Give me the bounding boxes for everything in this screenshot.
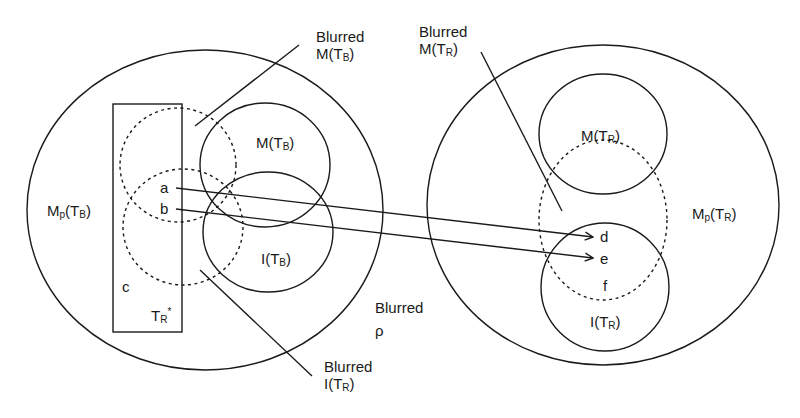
label-point-c: c	[122, 278, 130, 295]
label-blurred-m-tr: Blurred M(TR)	[419, 23, 467, 61]
tr-star-rectangle	[113, 104, 182, 332]
left-m-tb-circle	[200, 103, 330, 227]
left-i-tb-circle	[203, 172, 333, 292]
label-right-m-tr: M(TR)	[581, 127, 620, 148]
label-right-i-tr: I(TR)	[590, 313, 621, 334]
label-left-m-tb: M(TB)	[256, 134, 294, 155]
arrow-a-to-d	[176, 188, 593, 237]
callout-line-blurred-m-tb	[195, 45, 299, 126]
diagram-canvas	[0, 0, 800, 418]
label-blurred-rho: Blurred ρ	[375, 299, 423, 339]
label-point-d: d	[600, 228, 608, 245]
label-left-outer-mp-tb: Mp(TB)	[47, 202, 91, 223]
label-right-outer-mp-tr: Mp(TR)	[692, 205, 736, 226]
label-blurred-m-tb: Blurred M(TB)	[316, 28, 364, 66]
callout-line-blurred-m-tr	[481, 52, 562, 211]
label-point-e: e	[600, 250, 608, 267]
label-point-a: a	[160, 179, 168, 196]
callout-line-blurred-i-tr	[200, 270, 312, 376]
label-point-b: b	[160, 200, 168, 217]
left-dashed-blurred-m-circle	[120, 108, 236, 222]
label-tr-star: TR*	[151, 303, 171, 328]
right-dashed-blurred-circle	[539, 140, 667, 300]
arrow-b-to-e	[176, 209, 593, 258]
label-blurred-i-tr: Blurred I(TR)	[324, 358, 372, 396]
label-point-f: f	[603, 277, 607, 294]
label-left-i-tb: I(TB)	[261, 250, 291, 271]
